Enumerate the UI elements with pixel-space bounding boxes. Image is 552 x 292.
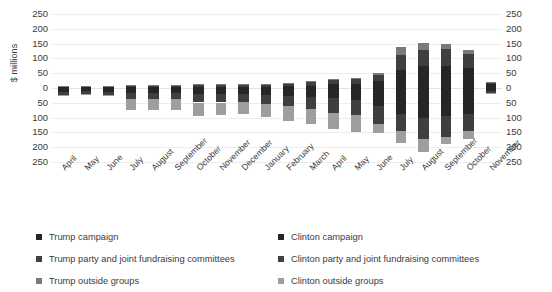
legend-swatch-square-icon — [36, 278, 42, 284]
bar-segment — [328, 80, 339, 85]
bar-segment — [126, 99, 137, 110]
bar-segment — [193, 84, 204, 86]
bar-segment — [261, 95, 272, 104]
bar-group[interactable] — [126, 14, 137, 162]
bar-segment — [193, 84, 204, 85]
bar-segment — [373, 106, 384, 124]
gridline-1 — [52, 29, 502, 30]
zero-line — [52, 88, 502, 89]
legend-column-trump: Trump campaignTrump party and joint fund… — [36, 226, 235, 292]
bar-segment — [238, 102, 249, 114]
bar-segment — [418, 43, 429, 50]
bar-segment — [486, 82, 497, 83]
bar-segment — [126, 85, 137, 86]
legend-item[interactable]: Trump party and joint fundraising commit… — [36, 248, 235, 270]
bar-group[interactable] — [103, 14, 114, 162]
bar-segment — [148, 85, 159, 87]
bar-segment — [103, 86, 114, 87]
bar-segment — [238, 84, 249, 85]
bar-group[interactable] — [81, 14, 92, 162]
gridline-3 — [52, 58, 502, 59]
bar-segment — [216, 84, 227, 86]
bar-group[interactable] — [283, 14, 294, 162]
y-tick-left-4: 50 — [22, 68, 48, 78]
y-tick-left-1: 200 — [22, 24, 48, 34]
legend-item-label: Clinton outside groups — [291, 276, 384, 286]
bar-group[interactable] — [351, 14, 362, 162]
bar-segment — [486, 93, 497, 94]
legend-item[interactable]: Clinton outside groups — [278, 270, 479, 292]
bar-group[interactable] — [441, 14, 452, 162]
bar-segment — [171, 85, 182, 86]
legend-item[interactable]: Clinton campaign — [278, 226, 479, 248]
bar-segment — [441, 137, 452, 145]
bar-segment — [351, 79, 362, 84]
bar-segment — [261, 84, 272, 85]
legend-item-label: Trump party and joint fundraising commit… — [49, 254, 235, 264]
bar-segment — [103, 95, 114, 96]
legend-item[interactable]: Trump campaign — [36, 226, 235, 248]
bar-segment — [58, 95, 69, 96]
y-tick-left-2: 150 — [22, 39, 48, 49]
legend-swatch-square-icon — [278, 234, 284, 240]
legend-item[interactable]: Trump outside groups — [36, 270, 235, 292]
y-tick-right-7: 100 — [506, 113, 532, 123]
bar-segment — [396, 55, 407, 69]
bar-segment — [283, 106, 294, 121]
gridline-0 — [52, 14, 502, 15]
y-tick-left-3: 100 — [22, 53, 48, 63]
bar-segment — [261, 88, 272, 95]
y-tick-right-0: 250 — [506, 9, 532, 19]
y-tick-left-6: 50 — [22, 98, 48, 108]
bar-segment — [463, 68, 474, 88]
bar-group[interactable] — [306, 14, 317, 162]
y-tick-right-6: 50 — [506, 98, 532, 108]
bar-group[interactable] — [171, 14, 182, 162]
bar-segment — [126, 85, 137, 87]
legend-swatch-square-icon — [278, 278, 284, 284]
legend-item-label: Trump campaign — [49, 232, 118, 242]
bar-group[interactable] — [396, 14, 407, 162]
bar-group[interactable] — [418, 14, 429, 162]
bar-segment — [441, 44, 452, 49]
bar-segment — [306, 82, 317, 86]
legend-swatch-square-icon — [36, 256, 42, 262]
bar-segment — [418, 50, 429, 66]
gridline-6 — [52, 103, 502, 104]
bar-segment — [171, 99, 182, 110]
bar-segment — [351, 88, 362, 100]
legend-swatch-square-icon — [278, 256, 284, 262]
legend-item-label: Clinton party and joint fundraising comm… — [291, 254, 479, 264]
y-tick-right-10: 250 — [506, 157, 532, 167]
bar-group[interactable] — [486, 14, 497, 162]
bar-segment — [216, 103, 227, 115]
y-axis-left-ticks: 25020015010050050100150200250 — [22, 14, 48, 162]
bar-segment — [463, 50, 474, 54]
bar-group[interactable] — [373, 14, 384, 162]
bar-group[interactable] — [58, 14, 69, 162]
bar-segment — [193, 94, 204, 102]
bar-segment — [396, 70, 407, 88]
bar-segment — [81, 94, 92, 95]
bar-segment — [373, 124, 384, 133]
bar-segment — [351, 78, 362, 79]
x-axis-labels: AprilMayJuneJulyAugustSeptemberOctoberNo… — [52, 166, 502, 224]
bar-segment — [148, 99, 159, 110]
bar-group[interactable] — [216, 14, 227, 162]
legend-item-label: Clinton campaign — [291, 232, 363, 242]
bar-segment — [418, 139, 429, 152]
bar-segment — [441, 66, 452, 88]
y-tick-right-2: 150 — [506, 39, 532, 49]
legend-item[interactable]: Clinton party and joint fundraising comm… — [278, 248, 479, 270]
bar-segment — [283, 96, 294, 106]
bar-group[interactable] — [328, 14, 339, 162]
bar-segment — [81, 86, 92, 87]
gridline-4 — [52, 73, 502, 74]
bar-segment — [418, 66, 429, 88]
bar-segment — [441, 116, 452, 136]
bar-segment — [373, 73, 384, 74]
bar-group[interactable] — [148, 14, 159, 162]
bar-segment — [418, 118, 429, 139]
y-tick-left-5: 0 — [22, 83, 48, 93]
bar-segment — [283, 83, 294, 84]
